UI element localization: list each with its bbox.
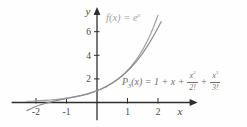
f-formula: f(x) = ex (106, 13, 140, 24)
annotation-p3-of-x: P3(x) = 1 + x + x22! + x33! (122, 72, 220, 92)
taylor-polynomial-figure: -2-112246xy f(x) = ex P3(x) = 1 + x + x2… (0, 0, 247, 127)
y-tick-label: 2 (86, 74, 91, 84)
y-tick-label: 4 (86, 51, 91, 61)
p3-frac1-numerator: x2 (187, 72, 197, 83)
x-axis-title: x (177, 105, 183, 117)
f-exponent: x (138, 11, 141, 18)
curve-taylor-p3 (27, 22, 161, 111)
x-axis-arrow (190, 99, 198, 106)
p3-plus: + (201, 77, 208, 87)
annotation-f-of-x: f(x) = ex (106, 13, 140, 24)
p3-head: P3(x) = 1 + x + (122, 77, 184, 87)
p3-rest: (x) = 1 + x + (131, 76, 184, 87)
p3-fraction-2: x33! (210, 72, 220, 92)
x-tick-label: 2 (156, 107, 161, 117)
p3-fraction-1: x22! (187, 72, 197, 92)
p3-frac1-denominator: 2! (189, 83, 196, 93)
y-axis-title: y (85, 5, 91, 17)
x-tick-label: 1 (125, 107, 130, 117)
p3-frac2-numerator: x3 (210, 72, 220, 83)
x-tick-label: -1 (63, 107, 71, 117)
y-axis-arrow (94, 7, 101, 15)
y-tick-label: 6 (86, 27, 91, 37)
p3-frac2-denominator: 3! (212, 83, 219, 93)
f-rest: (x) = e (109, 12, 138, 23)
